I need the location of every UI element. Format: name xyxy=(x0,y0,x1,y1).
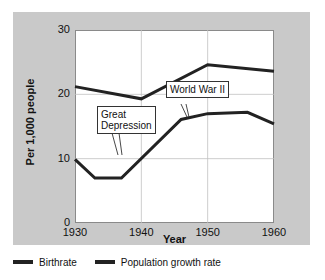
y-tick-label: 30 xyxy=(44,24,70,35)
annotation-world-war-ii: World War II xyxy=(166,81,229,98)
legend-label: Population growth rate xyxy=(121,257,221,268)
chart-legend: BirthratePopulation growth rate xyxy=(13,252,310,272)
legend-item[interactable]: Birthrate xyxy=(13,257,77,268)
legend-swatch-icon xyxy=(95,260,115,264)
annotation-great-depression: Great Depression xyxy=(97,106,156,134)
y-tick-label: 20 xyxy=(44,88,70,99)
legend-swatch-icon xyxy=(13,260,33,264)
legend-item[interactable]: Population growth rate xyxy=(95,257,221,268)
y-tick-label: 10 xyxy=(44,153,70,164)
x-axis-label: Year xyxy=(75,233,274,245)
y-axis-label: Per 1,000 people xyxy=(24,62,36,182)
chart-figure: 0102030 1930194019501960 Per 1,000 peopl… xyxy=(0,0,325,280)
legend-label: Birthrate xyxy=(39,257,77,268)
